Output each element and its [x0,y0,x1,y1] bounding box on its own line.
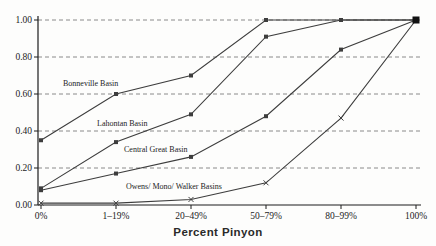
data-point-marker [189,112,193,116]
data-point-marker [339,116,344,121]
data-point-marker [339,48,343,52]
data-point-marker [264,114,268,118]
data-point-marker [114,140,118,144]
x-tick-label: 50–79% [250,211,282,221]
data-point-marker [39,188,43,192]
x-tick-label: 80–99% [325,211,357,221]
y-tick-label: 0.80 [15,52,32,62]
x-tick-label: 20–49% [175,211,207,221]
series-label: Central Great Basin [124,145,188,154]
y-tick-label: 0.40 [15,126,32,136]
series-line [41,20,416,188]
data-point-marker [189,155,193,159]
data-point-marker [264,18,268,22]
series-label: Lahontan Basin [97,119,147,128]
y-tick-label: 0.00 [15,200,32,210]
series-label: Bonneville Basin [63,79,118,88]
data-point-marker [114,172,118,176]
x-axis-title: Percent Pinyon [0,226,436,238]
y-tick-label: 1.00 [15,15,32,25]
data-point-marker [114,92,118,96]
series-label: Owens/ Mono/ Walker Basins [126,182,222,191]
x-tick-label: 100% [405,211,427,221]
pinyon-cumulative-line-chart: 0.000.200.400.600.801.000%1–19%20–49%50–… [0,0,436,246]
final-data-point-marker [413,17,420,24]
x-tick-label: 0% [35,211,48,221]
y-tick-label: 0.20 [15,163,32,173]
chart-figure: 0.000.200.400.600.801.000%1–19%20–49%50–… [0,0,436,246]
data-point-marker [189,74,193,78]
data-point-marker [39,138,43,142]
data-point-marker [264,35,268,39]
data-point-marker [339,18,343,22]
y-tick-label: 0.60 [15,89,32,99]
x-tick-label: 1–19% [103,211,130,221]
